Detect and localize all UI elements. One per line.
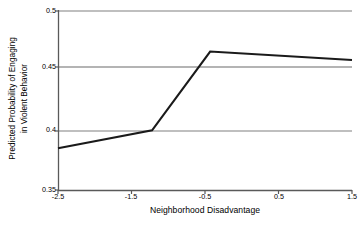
data-line-predicted-probability — [58, 52, 352, 149]
y-axis-ticks — [55, 11, 58, 190]
x-tick-label-1.5: 1.5 — [337, 192, 359, 201]
x-axis-title: Neighborhood Disadvantage — [56, 205, 354, 215]
x-tick-label--0.5: -0.5 — [190, 192, 220, 201]
chart-container: Predicted Probability of Engaging in Vio… — [0, 0, 359, 228]
gridlines — [58, 11, 352, 131]
x-tick-label--2.5: -2.5 — [43, 192, 73, 201]
x-axis-tick-labels: -2.5 -1.5 -0.5 0.5 1.5 — [0, 192, 359, 206]
x-tick-label--1.5: -1.5 — [116, 192, 146, 201]
x-tick-label-0.5: 0.5 — [264, 192, 294, 201]
